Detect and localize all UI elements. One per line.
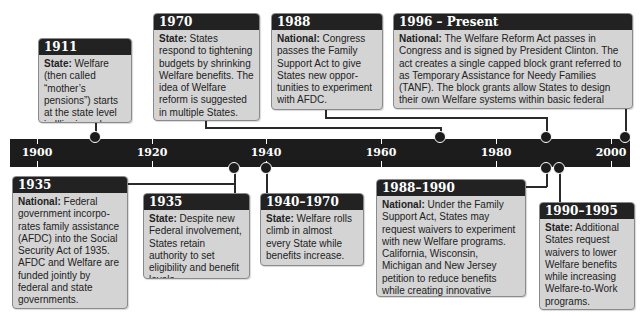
event-scope: National: xyxy=(277,33,320,44)
connector-1935-national-h xyxy=(127,183,235,185)
tick-2000 xyxy=(611,139,612,144)
marker-1935 xyxy=(228,162,240,174)
event-text: The Welfare Reform Act passes in Congres… xyxy=(399,33,621,109)
event-description: State: Despite new Federal involvement, … xyxy=(144,210,249,279)
event-year: 1940–1970 xyxy=(261,194,363,210)
connector-1990-1995 xyxy=(559,170,561,202)
timeline-bar xyxy=(10,139,630,167)
event-card-1970: 1970 State: States respond to tightening… xyxy=(153,13,260,121)
tick-1920-bottom xyxy=(152,161,153,167)
event-text: Federal government incorpo-rates family … xyxy=(18,196,119,305)
event-description: National: Congress passes the Family Sup… xyxy=(272,30,382,110)
event-card-1988: 1988 National: Congress passes the Famil… xyxy=(271,13,383,110)
event-card-1935-state: 1935 State: Despite new Federal involvem… xyxy=(143,193,250,279)
tick-2000-bottom xyxy=(611,161,612,167)
tick-label-2000: 2000 xyxy=(591,147,631,159)
tick-label-1900: 1900 xyxy=(17,147,57,159)
event-card-1990-1995: 1990–1995 State: Additional States reque… xyxy=(539,202,635,310)
tick-1920 xyxy=(152,139,153,144)
tick-1940 xyxy=(266,139,267,144)
event-description: National: Federal government incorpo-rat… xyxy=(13,193,127,309)
marker-1911 xyxy=(89,131,101,143)
event-year: 1935 xyxy=(144,194,249,210)
tick-1960 xyxy=(381,139,382,144)
event-description: State: Welfare (then called “mother’s pe… xyxy=(39,55,131,123)
event-card-1911: 1911 State: Welfare (then called “mother… xyxy=(38,38,132,123)
event-scope: State: xyxy=(149,213,177,224)
marker-1970 xyxy=(434,131,446,143)
event-description: State: States respond to tightening budg… xyxy=(154,30,259,121)
marker-1940 xyxy=(260,162,272,174)
event-card-1935-national: 1935 National: Federal government incorp… xyxy=(12,176,128,309)
event-year: 1996 – Present xyxy=(394,14,632,30)
tick-label-1920: 1920 xyxy=(132,147,172,159)
tick-1900 xyxy=(37,139,38,144)
marker-1988 xyxy=(540,131,552,143)
connector-1988-h xyxy=(325,117,546,119)
event-scope: State: xyxy=(266,213,294,224)
tick-1900-bottom xyxy=(37,161,38,167)
event-card-1988-1990: 1988–1990 National: Under the Family Sup… xyxy=(376,179,526,297)
event-year: 1935 xyxy=(13,177,127,193)
event-card-1940-1970: 1940–1970 State: Welfare rolls climb in … xyxy=(260,193,364,266)
tick-1980 xyxy=(496,139,497,144)
marker-1988-1990 xyxy=(540,162,552,174)
tick-label-1980: 1980 xyxy=(476,147,516,159)
event-card-1996-present: 1996 – Present National: The Welfare Ref… xyxy=(393,13,633,109)
event-scope: National: xyxy=(18,196,61,207)
event-scope: State: xyxy=(44,58,72,69)
tick-1960-bottom xyxy=(381,161,382,167)
event-text: States respond to tightening budgets by … xyxy=(159,33,254,118)
tick-label-1960: 1960 xyxy=(361,147,401,159)
event-scope: National: xyxy=(382,199,425,210)
connector-1970-h xyxy=(205,127,441,129)
event-year: 1988–1990 xyxy=(377,180,525,196)
marker-1990-1995 xyxy=(553,162,565,174)
connector-1988-1990-h xyxy=(525,186,547,188)
event-scope: State: xyxy=(159,33,187,44)
marker-1996 xyxy=(619,131,631,143)
event-description: National: Under the Family Support Act, … xyxy=(377,196,525,297)
event-scope: National: xyxy=(399,33,442,44)
event-scope: State: xyxy=(545,222,573,233)
event-year: 1970 xyxy=(154,14,259,30)
event-year: 1988 xyxy=(272,14,382,30)
event-year: 1990–1995 xyxy=(540,203,634,219)
event-description: State: Welfare rolls climb in almost eve… xyxy=(261,210,363,265)
event-description: National: The Welfare Reform Act passes … xyxy=(394,30,632,109)
event-year: 1911 xyxy=(39,39,131,55)
event-text: Under the Family Support Act, States may… xyxy=(382,199,515,297)
tick-label-1940: 1940 xyxy=(246,147,286,159)
tick-1980-bottom xyxy=(496,161,497,167)
event-text: Additional States request waivers to low… xyxy=(545,222,619,307)
event-description: State: Additional States request waivers… xyxy=(540,219,634,310)
